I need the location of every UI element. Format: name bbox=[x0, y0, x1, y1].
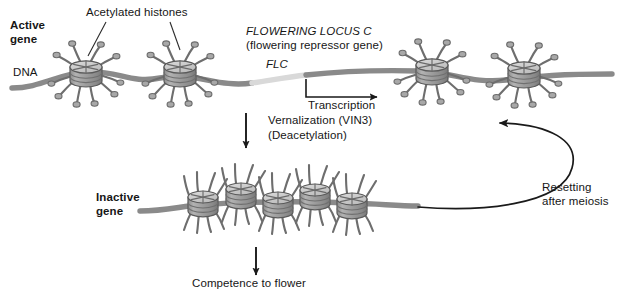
flowering-locus-c-label: FLOWERING LOCUS C bbox=[246, 25, 372, 39]
inactive-gene-state bbox=[140, 164, 418, 235]
nucleosome-deacetylated bbox=[296, 165, 339, 226]
inactive-gene-label: Inactive gene bbox=[96, 191, 140, 218]
flowering-repressor-gene-label: (flowering repressor gene) bbox=[246, 39, 383, 53]
transcription-arrow bbox=[306, 79, 377, 97]
nucleosome-acetylated bbox=[142, 41, 218, 107]
figure-canvas: Active gene DNA Acetylated histones FLOW… bbox=[0, 0, 621, 299]
deacetylation-label: (Deacetylation) bbox=[268, 129, 347, 143]
resetting-after-meiosis-label: Resetting after meiosis bbox=[542, 181, 609, 208]
dna-label: DNA bbox=[13, 66, 38, 80]
transcription-label: Transcription bbox=[308, 99, 375, 113]
vernalization-label: Vernalization (VIN3) bbox=[268, 114, 372, 128]
acetylated-histones-leader-lines bbox=[88, 22, 180, 56]
active-gene-label: Active gene bbox=[10, 19, 45, 46]
nucleosome-deacetylated bbox=[222, 164, 265, 225]
flc-label: FLC bbox=[266, 58, 288, 72]
competence-to-flower-label: Competence to flower bbox=[192, 277, 306, 291]
acetylated-histones-label: Acetylated histones bbox=[86, 6, 188, 20]
